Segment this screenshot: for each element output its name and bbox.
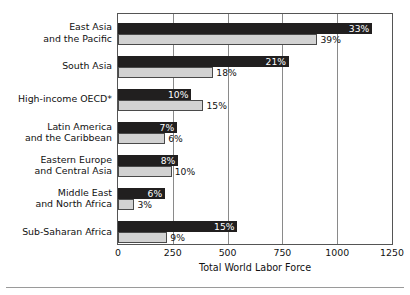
category-label-line: Latin America bbox=[0, 121, 112, 132]
footer-rule bbox=[6, 287, 404, 288]
category-label-line: Eastern Europe bbox=[0, 154, 112, 165]
x-tick-label: 1000 bbox=[325, 247, 349, 258]
bar-1995 bbox=[118, 199, 134, 210]
category-label: Latin Americaand the Caribbean bbox=[0, 121, 112, 143]
gridline bbox=[228, 14, 229, 244]
category-axis: East Asiaand the PacificSouth AsiaHigh-i… bbox=[0, 13, 112, 245]
category-label-line: and the Caribbean bbox=[0, 132, 112, 143]
bar-1995 bbox=[118, 67, 213, 78]
x-tick-label: 500 bbox=[219, 247, 237, 258]
category-label: Sub-Saharan Africa bbox=[0, 226, 112, 237]
bar-value-label: 15% bbox=[118, 221, 237, 232]
bar-value-label: 6% bbox=[118, 188, 165, 199]
plot-area: 33%39%21%18%10%15%7%6%8%10%6%3%15%9% 202… bbox=[117, 13, 393, 245]
bar-1995 bbox=[118, 133, 165, 144]
bar-1995 bbox=[118, 34, 317, 45]
bar-1995 bbox=[118, 166, 172, 177]
x-tick-label: 750 bbox=[273, 247, 291, 258]
category-label-line: and Central Asia bbox=[0, 165, 112, 176]
x-tick-label: 0 bbox=[115, 247, 121, 258]
bar-value-label: 21% bbox=[118, 56, 289, 67]
category-label: South Asia bbox=[0, 60, 112, 71]
category-label: East Asiaand the Pacific bbox=[0, 21, 112, 43]
gridline bbox=[337, 14, 338, 244]
category-label-line: Sub-Saharan Africa bbox=[0, 226, 112, 237]
bar-value-label: 33% bbox=[118, 23, 372, 34]
category-label-line: and the Pacific bbox=[0, 33, 112, 44]
category-label: Middle Eastand North Africa bbox=[0, 187, 112, 209]
bar-value-label: 3% bbox=[137, 199, 152, 210]
bar-value-label: 8% bbox=[118, 155, 178, 166]
bar-value-label: 10% bbox=[118, 89, 191, 100]
bar-value-label: 9% bbox=[170, 232, 185, 243]
bar-value-label: 6% bbox=[168, 133, 183, 144]
x-tick-label: 250 bbox=[164, 247, 182, 258]
gridline bbox=[282, 14, 283, 244]
x-axis-ticks: 025050075010001250 bbox=[0, 247, 410, 261]
category-label-line: Middle East bbox=[0, 187, 112, 198]
bar-value-label: 7% bbox=[118, 122, 177, 133]
bar-value-label: 18% bbox=[216, 67, 236, 78]
x-axis-title: Total World Labor Force bbox=[117, 262, 393, 273]
category-label-line: East Asia bbox=[0, 21, 112, 32]
chart-figure: East Asiaand the PacificSouth AsiaHigh-i… bbox=[0, 0, 410, 295]
category-label-line: High-income OECD* bbox=[0, 93, 112, 104]
x-tick-label: 1250 bbox=[380, 247, 404, 258]
category-label: Eastern Europeand Central Asia bbox=[0, 154, 112, 176]
category-label-line: and North Africa bbox=[0, 198, 112, 209]
category-label: High-income OECD* bbox=[0, 93, 112, 104]
bar-value-label: 10% bbox=[175, 166, 195, 177]
bar-value-label: 39% bbox=[320, 34, 340, 45]
bar-1995 bbox=[118, 232, 167, 243]
bar-value-label: 15% bbox=[206, 100, 226, 111]
category-label-line: South Asia bbox=[0, 60, 112, 71]
bar-1995 bbox=[118, 100, 203, 111]
